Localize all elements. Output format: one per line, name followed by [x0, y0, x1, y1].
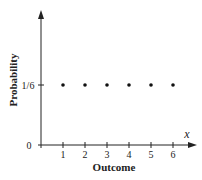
x-tick-label-4: 4	[127, 149, 132, 160]
probability-chart: 0 1/6 1 2 3 4 5 6 x Outcome Probability	[0, 0, 202, 180]
x-tick-label-1: 1	[61, 149, 66, 160]
x-tick-label-2: 2	[83, 149, 88, 160]
data-point	[171, 83, 175, 87]
x-axis-variable: x	[183, 127, 190, 141]
data-point	[149, 83, 153, 87]
x-tick-label-3: 3	[105, 149, 110, 160]
x-tick-label-5: 5	[149, 149, 154, 160]
y-axis-title: Probability	[7, 53, 19, 106]
data-point	[105, 83, 109, 87]
data-points	[61, 83, 175, 87]
x-axis-arrow-icon	[188, 142, 197, 148]
y-tick-label-zero: 0	[27, 140, 32, 151]
data-point	[83, 83, 87, 87]
y-tick-label-one-sixth: 1/6	[22, 80, 35, 91]
data-point	[61, 83, 65, 87]
x-tick-label-6: 6	[171, 149, 176, 160]
data-point	[127, 83, 131, 87]
x-axis-title: Outcome	[93, 161, 136, 173]
y-axis-arrow-icon	[38, 10, 44, 19]
